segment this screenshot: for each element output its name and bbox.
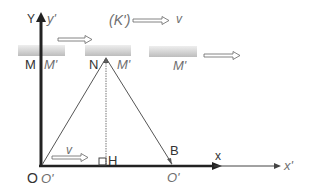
mirror-label-M-prime-1: M' bbox=[44, 58, 57, 71]
arrow-head-N bbox=[103, 57, 109, 63]
light-path-up bbox=[42, 58, 106, 165]
mirror-label-M-prime-2: M' bbox=[117, 58, 130, 71]
light-path-down bbox=[106, 58, 172, 164]
mirror-label-M: M bbox=[25, 58, 36, 71]
mirror-bar-2 bbox=[85, 45, 131, 56]
arrow-head-B bbox=[167, 158, 172, 165]
relativity-light-clock-diagram: Y y' (K') v M M' N M' M' v H B x x' O O'… bbox=[0, 0, 309, 191]
mirror-label-M-prime-3: M' bbox=[173, 59, 186, 72]
x-axis-label: x bbox=[215, 150, 221, 162]
y-axis-label: Y bbox=[27, 13, 35, 25]
mirror-label-N: N bbox=[89, 58, 98, 71]
origin-O-label: O bbox=[27, 171, 38, 185]
mirror-bar-3 bbox=[149, 46, 197, 57]
velocity-arrow-right bbox=[204, 52, 240, 60]
x-prime-axis-label: x' bbox=[284, 159, 293, 172]
y-prime-axis-label: y' bbox=[47, 12, 56, 25]
frame-velocity-label: v bbox=[176, 13, 182, 25]
frame-label: (K') bbox=[109, 13, 130, 27]
velocity-arrow-top bbox=[58, 36, 92, 44]
point-B-label: B bbox=[170, 144, 179, 157]
x-axis bbox=[39, 162, 222, 170]
ground-velocity-label: v bbox=[66, 144, 72, 156]
x-prime-axis bbox=[214, 163, 281, 169]
origin-O-prime-label: O' bbox=[41, 172, 54, 185]
point-H-label: H bbox=[108, 154, 117, 167]
right-angle-marker bbox=[99, 158, 106, 165]
velocity-arrow-frame bbox=[133, 17, 169, 25]
y-axis bbox=[36, 12, 46, 167]
moved-origin-O-prime-label: O' bbox=[167, 171, 180, 184]
